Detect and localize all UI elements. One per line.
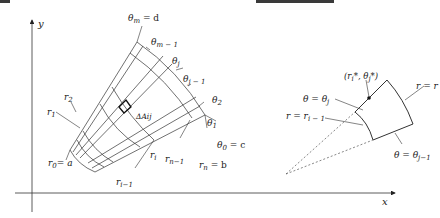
- right-leader-lines: [325, 80, 424, 144]
- polar-partition-diagram: y x θm = d θm − 1: [0, 0, 440, 218]
- leader-lines: [56, 26, 216, 168]
- polar-wedge-grid: [70, 42, 205, 172]
- label-theta-m: θm = d: [128, 13, 159, 25]
- y-axis-label: y: [37, 18, 44, 29]
- label-theta-j: θj: [172, 56, 180, 68]
- label-r-eq-r-i: r = r: [416, 81, 439, 91]
- label-delta-a: ΔAij: [135, 112, 152, 121]
- label-r-1: r1: [47, 107, 56, 119]
- delta-a-cell: [119, 100, 131, 113]
- pole-rays: [286, 112, 373, 174]
- label-theta-1: θ1: [207, 118, 217, 130]
- label-r-n-minus-1: rn−1: [165, 154, 184, 166]
- label-sample-point: (ri*, θj*): [344, 71, 378, 83]
- label-theta-j-minus-1: θj − 1: [183, 74, 205, 86]
- label-theta-2: θ2: [212, 95, 222, 107]
- label-r-n: rn = b: [199, 160, 227, 172]
- label-r-i: ri: [150, 150, 157, 162]
- label-r-i-minus-1: ri−1: [116, 177, 133, 189]
- label-theta-0: θ0 = c: [217, 140, 245, 152]
- label-theta-eq-theta-j-minus-1: θ = θj−1: [394, 150, 431, 162]
- label-theta-eq-theta-j: θ = θj: [303, 94, 330, 106]
- label-r-2: r2: [64, 92, 73, 104]
- label-theta-m-minus-1: θm − 1: [151, 37, 178, 49]
- label-r-0: r0= a: [48, 158, 73, 170]
- x-axis-label: x: [382, 196, 388, 207]
- label-r-eq-r-i-minus-1: r = ri − 1: [286, 111, 325, 123]
- polar-rectangle: [355, 80, 413, 140]
